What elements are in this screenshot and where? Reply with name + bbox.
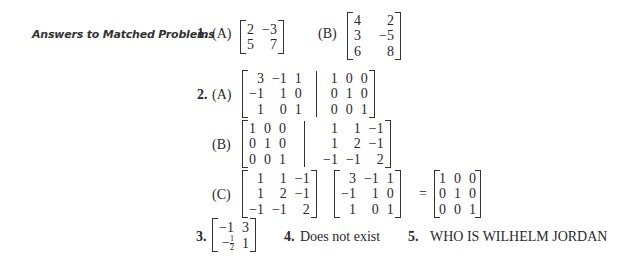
matrix-2c-2: 3−11 −110 101 — [334, 170, 401, 218]
matrix-2b: 10011−1 01012−1 001−1−12 — [242, 120, 391, 168]
section-heading: Answers to Matched Problems — [32, 28, 215, 41]
fraction-one-half: 12 — [230, 235, 234, 252]
problem-2c-label: (C) — [212, 187, 231, 203]
problem-1a-label: (A) — [212, 26, 231, 42]
problem-4-number: 4. — [284, 229, 295, 245]
matrix-1a: 2−3 57 — [240, 20, 284, 54]
identity-matrix: 100 010 001 — [434, 170, 481, 218]
problem-2b-label: (B) — [212, 137, 231, 153]
equals-sign: = — [419, 186, 427, 202]
matrix-1b: 42 3−5 68 — [347, 12, 401, 60]
problem-1b-label: (B) — [318, 26, 337, 42]
matrix-2c-1: 11−1 12−1 −1−12 — [242, 170, 317, 218]
problem-3-number: 3. — [196, 229, 207, 245]
problem-4-answer: Does not exist — [300, 229, 380, 245]
problem-2-number: 2. — [197, 87, 208, 103]
problem-1-number: 1. — [197, 26, 208, 42]
matrix-2a: 3−11100 −110010 101001 — [242, 70, 375, 118]
problem-5-answer: WHO IS WILHELM JORDAN — [430, 229, 607, 245]
matrix-3: −13 −121 — [212, 218, 256, 252]
problem-5-number: 5. — [408, 229, 419, 245]
problem-2a-label: (A) — [212, 87, 231, 103]
